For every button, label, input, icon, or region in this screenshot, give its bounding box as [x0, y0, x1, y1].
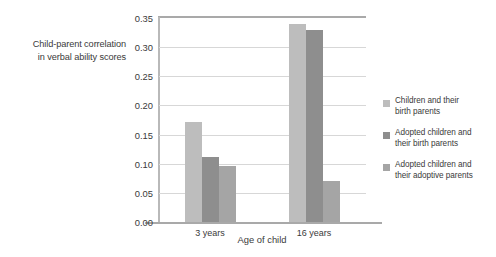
- chart-legend: Children and theirbirth parentsAdopted c…: [383, 96, 495, 192]
- legend-label: Adopted children andtheir birth parents: [395, 128, 472, 149]
- y-tick-label: 0.10: [135, 158, 153, 169]
- plot-area: 0.000.050.100.150.200.250.300.35 3 years…: [158, 18, 366, 222]
- bar: [202, 157, 219, 222]
- bar: [219, 166, 236, 222]
- legend-swatch-icon: [383, 164, 390, 171]
- legend-swatch-icon: [383, 100, 390, 107]
- x-axis-line: [145, 222, 382, 224]
- y-axis-title-line-1: Child-parent correlation: [4, 38, 126, 51]
- gridline: [159, 76, 366, 77]
- y-tick-label: 0.35: [135, 13, 153, 24]
- bar: [323, 181, 340, 222]
- legend-label-line: Adopted children and: [395, 128, 472, 139]
- legend-item: Adopted children andtheir birth parents: [383, 128, 495, 149]
- y-axis-title: Child-parent correlation in verbal abili…: [4, 38, 126, 63]
- legend-swatch-icon: [383, 132, 390, 139]
- y-tick-label: 0.05: [135, 187, 153, 198]
- legend-item: Children and theirbirth parents: [383, 96, 495, 117]
- legend-label-line: Children and their: [395, 96, 459, 107]
- bar-chart-figure: Child-parent correlation in verbal abili…: [0, 0, 496, 257]
- y-tick-label: 0.15: [135, 129, 153, 140]
- bar: [185, 122, 202, 222]
- y-tick-label: 0.00: [135, 217, 153, 228]
- legend-label: Adopted children andtheir adoptive paren…: [395, 160, 473, 181]
- legend-label: Children and theirbirth parents: [395, 96, 459, 117]
- legend-label-line: birth parents: [395, 107, 459, 118]
- legend-label-line: their adoptive parents: [395, 171, 473, 182]
- plot-top-rule: [158, 16, 366, 18]
- y-tick-label: 0.20: [135, 100, 153, 111]
- x-axis-title: Age of child: [158, 234, 366, 245]
- y-tick-label: 0.30: [135, 42, 153, 53]
- legend-label-line: Adopted children and: [395, 160, 473, 171]
- y-axis-title-line-2: in verbal ability scores: [4, 51, 126, 64]
- legend-label-line: their birth parents: [395, 139, 472, 150]
- bar: [306, 30, 323, 222]
- gridline: [159, 47, 366, 48]
- legend-item: Adopted children andtheir adoptive paren…: [383, 160, 495, 181]
- bar: [289, 24, 306, 222]
- y-tick-label: 0.25: [135, 71, 153, 82]
- gridline: [159, 105, 366, 106]
